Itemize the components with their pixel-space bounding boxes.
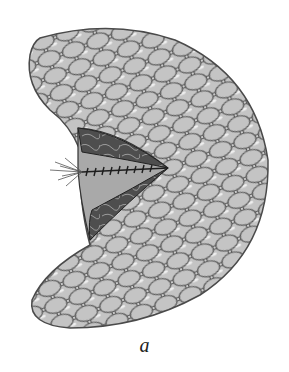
tissue-illustration: [0, 0, 289, 372]
suture-tuft: [50, 158, 82, 186]
figure-caption: a: [0, 334, 289, 357]
